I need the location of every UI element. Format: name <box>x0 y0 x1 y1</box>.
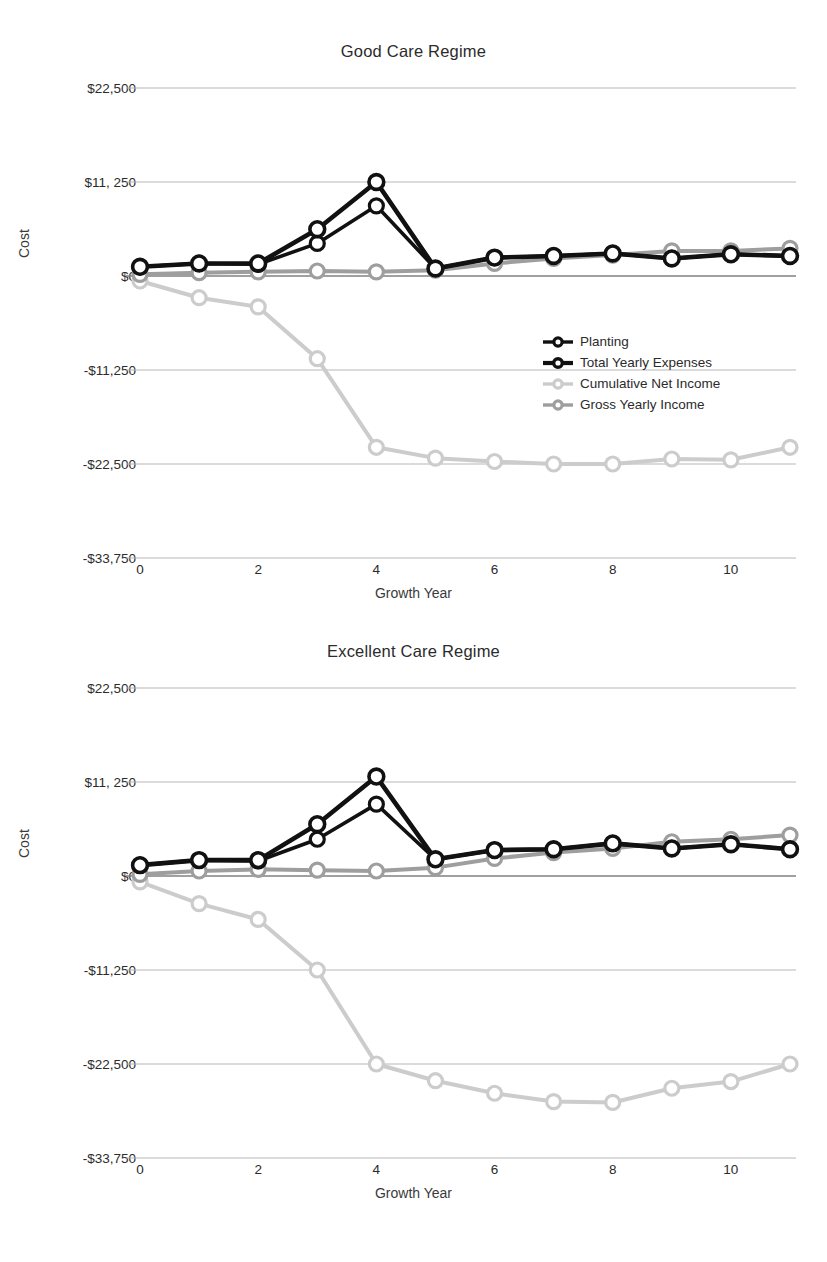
data-point <box>310 963 324 977</box>
figure-page: Good Care Regime Cost $22,500 $11, 250 $… <box>0 0 827 1262</box>
x-tick: 2 <box>254 1162 262 1177</box>
y-tick: -$22,500 <box>60 1057 136 1072</box>
data-point <box>369 797 383 811</box>
data-point <box>369 265 383 279</box>
data-point <box>605 246 620 261</box>
data-point <box>310 817 325 832</box>
data-point <box>310 352 324 366</box>
x-tick: 6 <box>491 1162 499 1177</box>
legend-label: Total Yearly Expenses <box>580 356 712 370</box>
data-point <box>369 769 384 784</box>
plot-svg <box>140 88 790 558</box>
legend-item-planting: Planting <box>543 331 720 352</box>
data-point <box>369 175 384 190</box>
y-tick: $22,500 <box>60 681 136 696</box>
legend-item-gross-yearly-income: Gross Yearly Income <box>543 394 720 415</box>
y-tick: $11, 250 <box>60 175 136 190</box>
x-tick: 10 <box>723 562 738 577</box>
data-point <box>369 1057 383 1071</box>
data-point <box>369 440 383 454</box>
data-point <box>665 1081 679 1095</box>
plot-svg <box>140 688 790 1158</box>
y-axis-label: Cost <box>16 829 32 858</box>
data-point <box>251 300 265 314</box>
data-point <box>251 853 266 868</box>
data-point <box>310 863 324 877</box>
data-point <box>606 1095 620 1109</box>
x-tick: 4 <box>373 1162 381 1177</box>
data-point <box>783 440 797 454</box>
y-tick: -$11,250 <box>60 363 136 378</box>
y-tick: $22,500 <box>60 81 136 96</box>
data-point <box>546 842 561 857</box>
data-point <box>192 291 206 305</box>
data-point <box>428 451 442 465</box>
legend-symbol-gross-yearly-income <box>543 398 573 412</box>
x-axis-ticks: 0 2 4 6 8 10 <box>140 1162 790 1184</box>
chart-good-care-regime: Good Care Regime Cost $22,500 $11, 250 $… <box>0 0 827 631</box>
y-tick: -$11,250 <box>60 963 136 978</box>
data-point <box>783 1057 797 1071</box>
data-point <box>724 453 738 467</box>
legend-item-total-yearly-expenses: Total Yearly Expenses <box>543 352 720 373</box>
data-point <box>133 259 148 274</box>
data-point <box>428 261 443 276</box>
x-tick: 0 <box>136 1162 144 1177</box>
y-tick: -$22,500 <box>60 457 136 472</box>
x-tick: 2 <box>254 562 262 577</box>
x-tick: 8 <box>609 1162 617 1177</box>
y-tick: -$33,750 <box>60 1151 136 1166</box>
chart-title: Excellent Care Regime <box>0 642 827 661</box>
data-point <box>251 912 265 926</box>
legend-label: Gross Yearly Income <box>580 398 705 412</box>
y-tick: $0 <box>60 269 136 284</box>
data-point <box>606 457 620 471</box>
chart-legend: Planting Total Yearly Expenses Cumulativ… <box>543 331 720 415</box>
y-tick: -$33,750 <box>60 551 136 566</box>
data-point <box>369 864 383 878</box>
data-point <box>547 1095 561 1109</box>
x-tick: 6 <box>491 562 499 577</box>
y-axis-label: Cost <box>16 229 32 258</box>
y-axis-ticks: $22,500 $11, 250 $0 -$11,250 -$22,500 -$… <box>52 88 136 558</box>
y-tick: $0 <box>60 869 136 884</box>
data-point <box>605 836 620 851</box>
data-point <box>251 256 266 271</box>
x-tick: 4 <box>373 562 381 577</box>
series-line <box>140 777 790 866</box>
legend-symbol-cumulative-net-income <box>543 377 573 391</box>
x-axis-label: Growth Year <box>0 1185 827 1201</box>
series-line <box>140 182 790 268</box>
data-point <box>724 837 739 852</box>
data-point <box>310 832 324 846</box>
data-point <box>488 454 502 468</box>
legend-symbol-planting <box>543 335 573 349</box>
data-point <box>310 236 324 250</box>
data-point <box>310 222 325 237</box>
data-point <box>488 1086 502 1100</box>
data-point <box>664 841 679 856</box>
data-point <box>664 251 679 266</box>
legend-item-cumulative-net-income: Cumulative Net Income <box>543 373 720 394</box>
data-point <box>428 1074 442 1088</box>
data-point <box>783 249 798 264</box>
data-point <box>369 199 383 213</box>
data-point <box>192 897 206 911</box>
x-axis-label: Growth Year <box>0 585 827 601</box>
data-point <box>487 250 502 265</box>
data-point <box>133 858 148 873</box>
data-point <box>487 843 502 858</box>
data-point <box>428 852 443 867</box>
chart-excellent-care-regime: Excellent Care Regime Cost $22,500 $11, … <box>0 600 827 1231</box>
y-axis-ticks: $22,500 $11, 250 $0 -$11,250 -$22,500 -$… <box>52 688 136 1158</box>
x-tick: 0 <box>136 562 144 577</box>
plot-area <box>140 88 790 558</box>
series-line <box>140 882 790 1103</box>
x-tick: 8 <box>609 562 617 577</box>
legend-label: Cumulative Net Income <box>580 377 720 391</box>
legend-symbol-total-yearly-expenses <box>543 356 573 370</box>
x-axis-ticks: 0 2 4 6 8 10 <box>140 562 790 584</box>
x-tick: 10 <box>723 1162 738 1177</box>
data-point <box>310 264 324 278</box>
plot-area <box>140 688 790 1158</box>
